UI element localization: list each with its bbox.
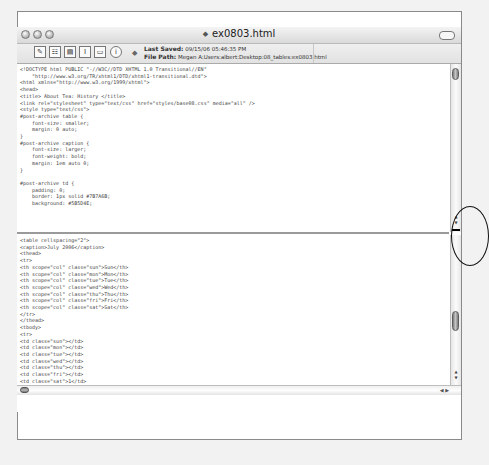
callout-circle: [451, 206, 489, 266]
file-path-value: Megan A:Users:albert:Desktop:08_tables:e…: [178, 54, 327, 60]
window-title-text: ex0803.html: [212, 28, 275, 39]
vertical-scrollbar-top[interactable]: ▲ ▼: [450, 64, 461, 232]
horizontal-scrollbar[interactable]: ◀ ▶: [17, 385, 461, 395]
file-path-label: File Path:: [144, 53, 176, 60]
last-saved-label: Last Saved:: [144, 45, 183, 52]
code-pane-top[interactable]: <!DOCTYPE html PUBLIC "-//W3C//DTD XHTML…: [17, 64, 449, 233]
pane-splitter[interactable]: [17, 232, 449, 234]
toolbar-toggle-button[interactable]: [439, 31, 455, 40]
toolbar: ✎ ☷ ▤ I ▭ i ◆ Last Saved: 09/15/06 05:46…: [17, 44, 461, 64]
scroll-thumb-top[interactable]: [452, 68, 459, 80]
list-icon[interactable]: ☷: [49, 46, 61, 58]
code-pane-bottom[interactable]: <table cellspacing="2"> <caption>July 20…: [17, 235, 449, 385]
window-title: ◆ex0803.html: [17, 28, 461, 39]
editor-window: ◆ex0803.html ✎ ☷ ▤ I ▭ i ◆ Last Saved: 0…: [17, 27, 461, 412]
code-text-top[interactable]: <!DOCTYPE html PUBLIC "-//W3C//DTD XHTML…: [17, 64, 449, 207]
scroll-left-arrow-icon[interactable]: ◀: [440, 387, 444, 393]
scroll-up-arrow-icon[interactable]: ▲: [452, 369, 460, 374]
comment-icon[interactable]: ▭: [94, 46, 106, 58]
horizontal-scroll-arrows[interactable]: ◀ ▶: [440, 386, 449, 395]
scroll-down-arrow-icon[interactable]: ▼: [452, 375, 460, 380]
file-info: Last Saved: 09/15/06 05:46:35 PM File Pa…: [144, 45, 327, 61]
status-dot-icon: ◆: [132, 49, 137, 57]
code-text-bottom[interactable]: <table cellspacing="2"> <caption>July 20…: [17, 235, 449, 385]
text-cursor-icon[interactable]: I: [79, 46, 91, 58]
document-proxy-icon[interactable]: ◆: [203, 30, 208, 38]
toolbar-divider: [313, 44, 314, 63]
edit-icon[interactable]: ✎: [34, 46, 46, 58]
last-saved-value: 09/15/06 05:46:35 PM: [185, 46, 246, 52]
info-icon[interactable]: i: [110, 46, 122, 58]
horizontal-scroll-thumb[interactable]: [20, 387, 29, 393]
scroll-right-arrow-icon[interactable]: ▶: [445, 387, 449, 393]
title-bar[interactable]: ◆ex0803.html: [17, 27, 461, 44]
scroll-thumb-bottom[interactable]: [452, 311, 459, 331]
document-icon[interactable]: ▤: [64, 46, 76, 58]
